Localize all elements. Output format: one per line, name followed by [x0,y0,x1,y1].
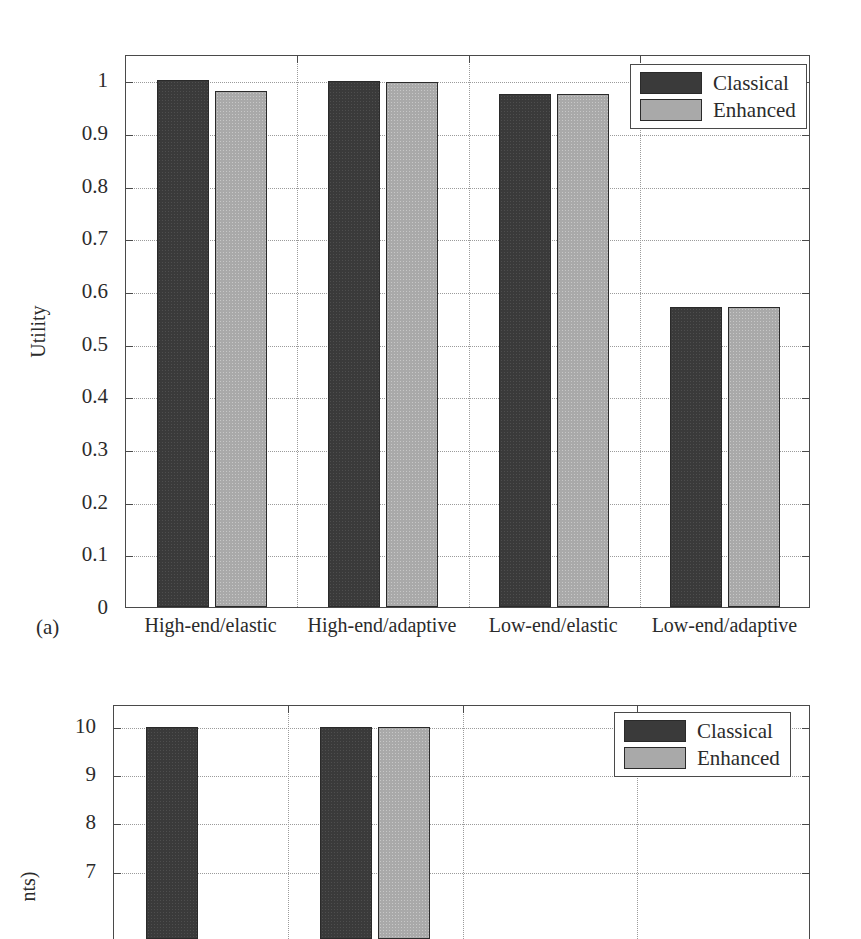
legend-label-classical: Classical [713,72,789,94]
legend-swatch-enhanced-icon [640,99,702,121]
vertical-gridline [288,706,289,939]
legend-item: Enhanced [624,747,780,769]
y-tick-mark [114,873,121,874]
bar [320,727,372,939]
legend-label-classical: Classical [697,720,773,742]
vertical-gridline [640,56,641,607]
y-tick-mark [802,188,809,189]
y-tick-mark [802,135,809,136]
bar [728,307,780,607]
bar [157,80,209,607]
y-tick-label: 0.6 [0,281,108,302]
y-tick-label: 0.7 [0,228,108,249]
y-tick-mark [802,556,809,557]
bar [378,727,430,939]
subfigure-label-a: (a) [36,617,59,638]
y-tick-mark [126,240,133,241]
y-tick-mark [126,346,133,347]
y-tick-mark [802,293,809,294]
x-tick-mark [463,706,464,713]
y-tick-mark [126,188,133,189]
vertical-gridline [469,56,470,607]
y-tick-mark [114,776,121,777]
plot-area-b: Classical Enhanced [113,705,810,939]
bar [557,94,609,607]
vertical-gridline [463,706,464,939]
y-tick-mark [126,504,133,505]
y-tick-label: 0.8 [0,176,108,197]
x-tick-label: Low-end/adaptive [614,614,834,636]
y-tick-mark [802,240,809,241]
gridline [114,873,809,874]
y-tick-label: 0.5 [0,334,108,355]
bar [146,727,198,939]
legend-item: Classical [624,720,780,742]
bar [215,91,267,607]
y-tick-mark [802,346,809,347]
legend-item: Enhanced [640,99,796,121]
y-tick-label: 8 [0,812,96,833]
y-tick-mark [114,824,121,825]
x-tick-mark [297,56,298,63]
y-tick-label: 0.4 [0,386,108,407]
legend-swatch-classical-icon [624,720,686,742]
y-tick-label: 1 [0,70,108,91]
y-tick-label: 0.1 [0,544,108,565]
legend-label-enhanced: Enhanced [713,99,796,121]
y-tick-mark [126,82,133,83]
y-tick-mark [126,556,133,557]
y-tick-label: 10 [0,716,96,737]
bar [328,81,380,607]
bar [386,82,438,607]
bar [670,307,722,607]
y-tick-label: 7 [0,861,96,882]
y-tick-mark [802,873,809,874]
y-tick-mark [802,728,809,729]
y-tick-mark [126,451,133,452]
y-tick-mark [126,398,133,399]
x-tick-mark [469,56,470,63]
y-tick-mark [802,451,809,452]
legend-swatch-classical-icon [640,72,702,94]
figure-b: nts) 78910 Classical Enhanced [0,660,861,939]
bar [499,94,551,608]
legend-item: Classical [640,72,796,94]
y-tick-mark [114,728,121,729]
y-tick-label: 0.9 [0,123,108,144]
gridline [114,824,809,825]
plot-area-a: Classical Enhanced [125,55,810,608]
y-tick-mark [802,398,809,399]
vertical-gridline [297,56,298,607]
y-tick-mark [802,504,809,505]
x-tick-mark [640,56,641,63]
y-tick-label: 0.2 [0,492,108,513]
y-tick-mark [802,776,809,777]
y-tick-mark [126,293,133,294]
legend-swatch-enhanced-icon [624,747,686,769]
y-tick-label: 0.3 [0,439,108,460]
x-tick-mark [288,706,289,713]
y-tick-mark [802,824,809,825]
y-tick-label: 9 [0,764,96,785]
legend-a: Classical Enhanced [630,64,807,129]
legend-label-enhanced: Enhanced [697,747,780,769]
figure-a: Utility 00.10.20.30.40.50.60.70.80.91 Cl… [0,0,861,660]
legend-b: Classical Enhanced [614,712,791,777]
y-tick-mark [126,135,133,136]
